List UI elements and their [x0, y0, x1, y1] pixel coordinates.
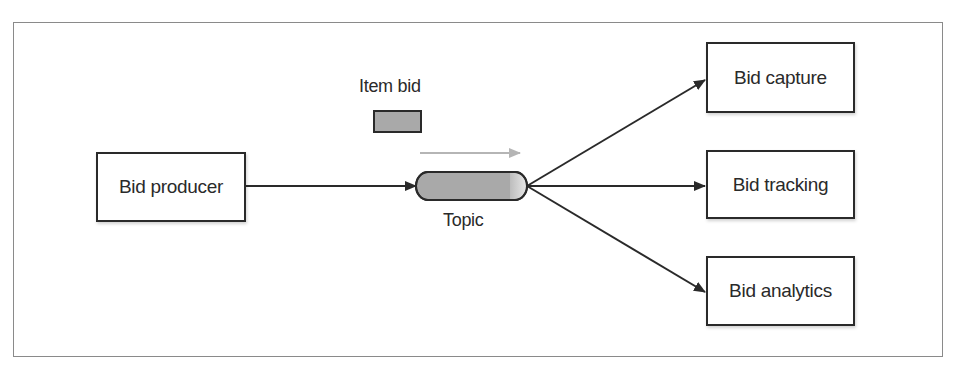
edge-topic-to-bid-analytics [527, 186, 705, 292]
item-bid-label: Item bid [359, 76, 421, 97]
bid-tracking-label: Bid tracking [733, 174, 829, 196]
bid-producer-label: Bid producer [119, 176, 223, 198]
bid-tracking-node: Bid tracking [706, 150, 855, 219]
item-bid-message-icon [373, 110, 422, 133]
bid-analytics-node: Bid analytics [706, 256, 855, 326]
topic-cylinder-icon [416, 172, 527, 200]
bid-producer-node: Bid producer [96, 152, 246, 222]
bid-capture-node: Bid capture [706, 42, 855, 113]
bid-analytics-label: Bid analytics [729, 280, 832, 302]
edge-topic-to-bid-capture [527, 80, 705, 186]
topic-label: Topic [443, 210, 484, 231]
bid-capture-label: Bid capture [734, 67, 827, 89]
